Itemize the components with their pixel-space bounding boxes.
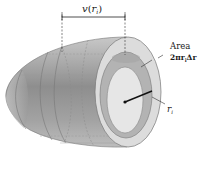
inner-disk xyxy=(107,67,143,133)
velocity-label: v(ri) xyxy=(82,3,102,15)
area-title: Area xyxy=(169,41,190,51)
cross-section-face xyxy=(95,37,165,147)
area-formula: 2πriΔr xyxy=(170,53,197,63)
paraboloid-flow-diagram: v(ri) Area 2πriΔr ri xyxy=(0,0,208,174)
radius-label: ri xyxy=(167,104,173,115)
